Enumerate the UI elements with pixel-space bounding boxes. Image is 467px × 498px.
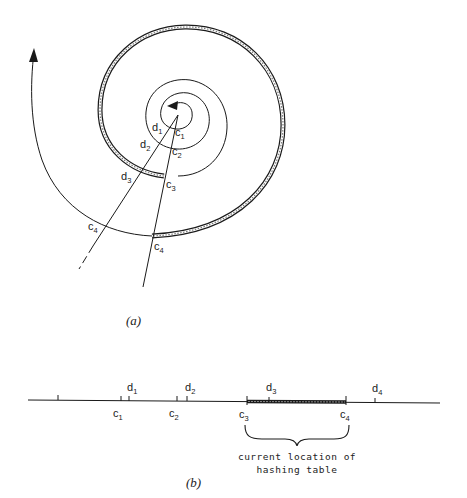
label-c4-right: c4 [154,240,164,255]
address-axis [28,400,440,403]
axis-label-c2: c2 [169,407,179,422]
ray-c [143,115,178,287]
brace-note-line1: current location of [238,451,356,462]
label-d3: d3 [121,170,131,185]
linear-panel-b: d1 d2 d3 d4 c1 c2 c3 c4 current location… [28,381,440,490]
label-d1: d1 [152,121,162,136]
axis-label-d4: d4 [372,382,382,397]
axis-label-c4: c4 [340,408,350,423]
curly-brace-icon [245,425,349,446]
label-d2: d2 [140,138,150,153]
outer-arrowhead-icon [29,48,38,62]
label-c2: c2 [172,145,182,160]
spiral-panel-a: d1 c1 d2 c2 d3 c3 c4 c4 (a) [29,27,283,328]
axis-label-d2: d2 [185,381,195,396]
spiral-outer-arc [32,52,152,236]
brace-note-line2: hashing table [257,464,338,475]
ray-d-dashed [79,246,93,269]
axis-label-c3: c3 [239,408,249,423]
caption-b: (b) [186,475,201,490]
center-arrowhead-icon [167,101,178,110]
hashing-table-diagram: d1 c1 d2 c2 d3 c3 c4 c4 (a) d1 d2 d3 d4 … [0,0,467,498]
label-c3: c3 [166,178,176,193]
axis-label-d3: d3 [266,381,276,396]
axis-label-d1: d1 [127,381,137,396]
axis-label-c1: c1 [113,407,123,422]
caption-a: (a) [126,313,141,328]
hashing-table-band-spiral [100,27,283,236]
